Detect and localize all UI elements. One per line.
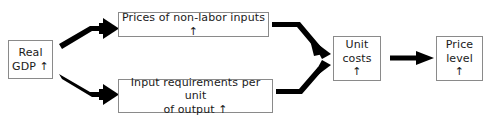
node-price-level-label: Price level ↑ (440, 38, 479, 78)
node-real-gdp-label: Real GDP ↑ (12, 46, 49, 73)
node-real-gdp: Real GDP ↑ (8, 40, 53, 79)
edge-input-req-to-unit-costs-arrow (276, 60, 331, 94)
node-unit-costs-label: Unit costs ↑ (337, 38, 377, 78)
edge-gdp-to-prices-arrow (59, 18, 119, 49)
node-price-level: Price level ↑ (436, 36, 483, 81)
node-input-requirements: Input requirements per unit of output ↑ (118, 79, 273, 113)
edge-unit-costs-to-price-level-arrow (390, 51, 434, 65)
flowchart-diagram: Real GDP ↑ Prices of non-labor inputs ↑ … (0, 0, 492, 123)
edge-gdp-to-input-req-arrow (59, 74, 119, 105)
node-prices-non-labor-inputs-label: Prices of non-labor inputs ↑ (122, 11, 265, 38)
node-prices-non-labor-inputs: Prices of non-labor inputs ↑ (118, 12, 269, 37)
node-unit-costs: Unit costs ↑ (333, 36, 381, 81)
edge-prices-to-unit-costs-arrow (272, 22, 331, 59)
node-input-requirements-label: Input requirements per unit of output ↑ (122, 76, 269, 116)
